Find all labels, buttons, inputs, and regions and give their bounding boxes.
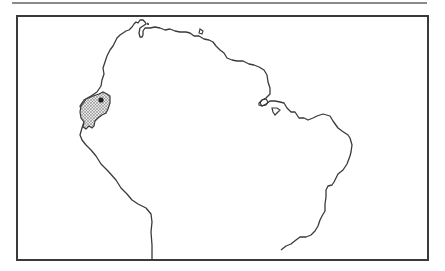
caribbean-island	[147, 23, 149, 25]
amazon-mouth-island	[272, 108, 280, 115]
trinidad-island	[199, 29, 203, 34]
locality-marker	[98, 97, 103, 102]
map-canvas	[0, 0, 445, 271]
coastline	[80, 20, 352, 261]
highlighted-region-ecuador	[80, 92, 110, 129]
